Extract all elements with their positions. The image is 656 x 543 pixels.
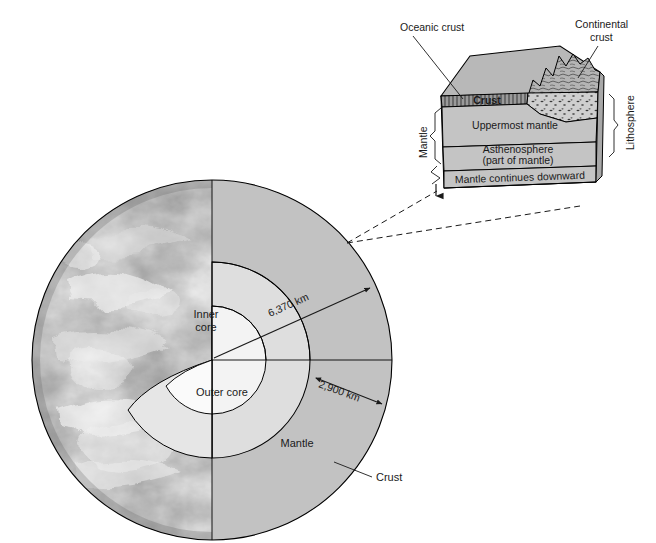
mantle-break-symbol [431, 166, 440, 184]
label-mantle-globe: Mantle [280, 437, 313, 449]
label-outer-core: Outer core [196, 386, 248, 398]
globe-group: 6,370 km 2,900 km Inner core Outer core … [32, 180, 402, 540]
callout-connectors [347, 191, 580, 243]
inset-label-mantle-bracket: Mantle [417, 126, 429, 158]
inset-label-asthenosphere-line2: (part of mantle) [482, 154, 553, 166]
inset-group: Crust Uppermost mantle Asthenosphere (pa… [400, 18, 636, 196]
leader-oceanic-crust [413, 36, 463, 99]
inset-label-lithosphere: Lithosphere [624, 95, 636, 150]
label-crust-globe: Crust [376, 471, 402, 483]
bracket-mantle [430, 108, 441, 164]
earth-structure-figure: 6,370 km 2,900 km Inner core Outer core … [0, 0, 656, 543]
inset-label-continental-crust-line2: crust [590, 31, 613, 43]
connector-dash-upper [347, 191, 437, 243]
figure-canvas: 6,370 km 2,900 km Inner core Outer core … [0, 0, 656, 543]
connector-dash-lower [347, 206, 580, 243]
inset-label-continental-crust-line1: Continental [575, 18, 628, 30]
bracket-lithosphere [609, 94, 618, 157]
inset-label-uppermost-mantle: Uppermost mantle [472, 119, 558, 131]
label-inner-core-line1: Inner [193, 308, 218, 320]
label-inner-core-line2: core [195, 321, 216, 333]
inset-label-crust: Crust [473, 94, 501, 106]
inset-label-oceanic-crust: Oceanic crust [400, 21, 464, 33]
